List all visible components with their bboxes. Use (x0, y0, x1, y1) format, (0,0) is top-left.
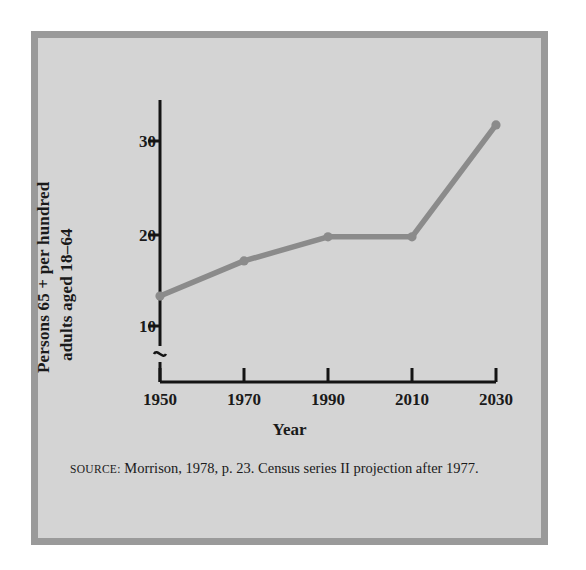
source-note-text: Morrison, 1978, p. 23. Census series II … (124, 460, 478, 476)
figure-frame: Persons 65 + per hundred adults aged 18–… (31, 31, 548, 545)
x-tick-label-1950: 1950 (143, 390, 177, 410)
data-point-1950 (155, 291, 164, 300)
x-tick-label-1970: 1970 (227, 390, 261, 410)
data-point-2030 (491, 120, 500, 129)
chart-svg (38, 38, 541, 438)
x-tick-label-1990: 1990 (311, 390, 345, 410)
data-point-1990 (323, 232, 332, 241)
data-point-2010 (407, 232, 416, 241)
y-axis-break-icon (154, 352, 166, 355)
source-note-keyword: Source: (70, 463, 121, 475)
x-axis-title: Year (38, 420, 541, 440)
data-point-1970 (239, 256, 248, 265)
x-tick-label-2010: 2010 (395, 390, 429, 410)
data-series-line (160, 125, 496, 296)
x-tick-label-2030: 2030 (479, 390, 513, 410)
source-note: Source: Morrison, 1978, p. 23. Census se… (70, 458, 490, 479)
